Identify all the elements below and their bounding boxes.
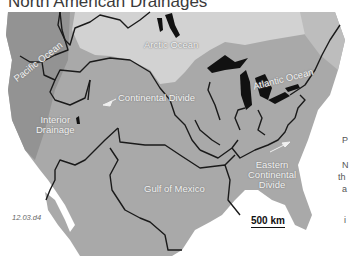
side-text-fragment: N xyxy=(342,160,349,170)
label-arctic-ocean: Arctic Ocean xyxy=(144,40,198,50)
side-text-fragment: P xyxy=(342,135,348,145)
interior-line2: Drainage xyxy=(36,125,75,135)
scale-bar: 500 km xyxy=(251,215,285,228)
label-interior-drainage: Interior Drainage xyxy=(36,115,75,135)
label-continental-divide: Continental Divide xyxy=(118,93,195,103)
label-eastern-continental-divide: Eastern Continental Divide xyxy=(248,160,296,190)
side-text-fragment: a xyxy=(342,184,347,194)
side-text-fragment: i xyxy=(344,215,346,225)
eastern-line3: Divide xyxy=(248,180,296,190)
label-gulf-of-mexico: Gulf of Mexico xyxy=(144,184,205,194)
figure-id: 12.03.d4 xyxy=(12,213,41,222)
side-text-fragment: th xyxy=(338,172,346,182)
